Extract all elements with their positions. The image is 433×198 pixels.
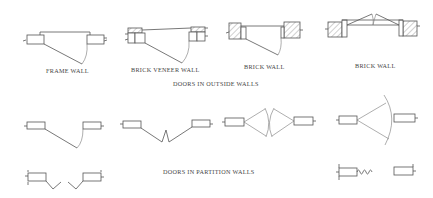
label-brick-wall-2: BRICK WALL xyxy=(355,62,396,69)
section-title-outside-walls: DOORS IN OUTSIDE WALLS xyxy=(173,80,259,87)
partition-double-acting-pair-symbol xyxy=(222,108,316,137)
door-symbols-diagram: FRAME WALL BRICK VENEER WALL BRICK WALL … xyxy=(0,0,433,198)
frame-wall-door-symbol xyxy=(23,32,107,64)
label-brick-wall-1: BRICK WALL xyxy=(244,63,285,70)
partition-double-acting-single-symbol xyxy=(336,95,418,145)
partition-accordion-symbol xyxy=(336,164,416,180)
partition-pair-bi-fold-symbol xyxy=(25,170,104,189)
brick-wall-door-symbol-2 xyxy=(325,14,420,37)
partition-single-swing-symbol xyxy=(24,122,104,148)
label-frame-wall: FRAME WALL xyxy=(46,67,89,74)
partition-bi-fold-symbol xyxy=(120,120,213,142)
section-title-partition-walls: DOORS IN PARTITION WALLS xyxy=(163,168,255,175)
label-brick-veneer-wall: BRICK VENEER WALL xyxy=(131,66,199,73)
brick-wall-door-symbol-1 xyxy=(226,22,303,55)
brick-veneer-wall-door-symbol xyxy=(125,27,208,63)
